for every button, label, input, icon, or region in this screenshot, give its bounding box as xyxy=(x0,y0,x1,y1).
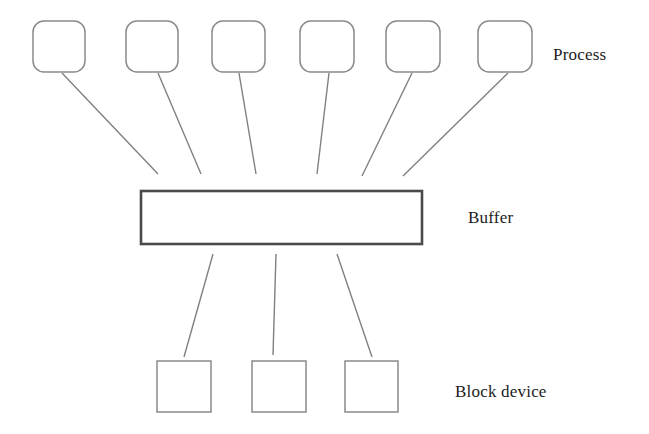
process-node-4[interactable] xyxy=(300,21,354,72)
block-device-layer-label: Block device xyxy=(455,383,547,400)
buffer-node[interactable] xyxy=(141,191,422,244)
diagram-graphic xyxy=(0,0,649,434)
process-node-3[interactable] xyxy=(212,21,265,72)
block-device-node-1[interactable] xyxy=(157,361,211,412)
connector-group-buffer-to-block-device xyxy=(184,254,372,357)
diagram-canvas: Process Buffer Block device xyxy=(0,0,649,434)
buffer-node-group xyxy=(141,191,422,244)
connector-buffer-to-block-device-3 xyxy=(337,254,372,357)
connector-process-1-to-buffer xyxy=(62,73,158,174)
connector-buffer-to-block-device-2 xyxy=(273,254,276,355)
process-node-group xyxy=(33,21,532,72)
buffer-layer-label: Buffer xyxy=(468,209,513,226)
block-device-node-3[interactable] xyxy=(345,361,398,412)
process-layer-label: Process xyxy=(553,46,606,63)
connector-process-3-to-buffer xyxy=(239,73,256,174)
connector-process-6-to-buffer xyxy=(403,73,508,176)
process-node-2[interactable] xyxy=(126,21,178,72)
connector-process-5-to-buffer xyxy=(362,73,412,176)
process-node-5[interactable] xyxy=(386,21,440,72)
block-device-node-2[interactable] xyxy=(252,361,306,412)
connector-group-process-to-buffer xyxy=(62,73,508,176)
connector-process-4-to-buffer xyxy=(317,73,329,174)
process-node-6[interactable] xyxy=(478,21,532,72)
connector-buffer-to-block-device-1 xyxy=(184,254,213,357)
process-node-1[interactable] xyxy=(33,21,85,72)
block-device-node-group xyxy=(157,361,398,412)
connector-process-2-to-buffer xyxy=(158,73,201,174)
